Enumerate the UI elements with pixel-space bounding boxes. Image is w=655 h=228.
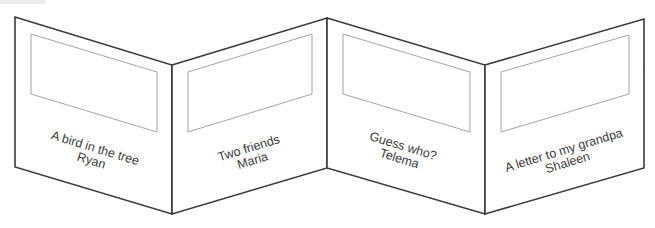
panel-3-outline <box>327 18 485 214</box>
panel-2-outline <box>172 18 327 214</box>
book-panel-3: Guess who? Telema <box>327 18 485 214</box>
book-panel-1: A bird in the tree Ryan <box>15 17 172 214</box>
panel-4-outline <box>485 19 644 214</box>
accordion-book-diagram: A bird in the tree Ryan Two friends Mari… <box>0 0 655 228</box>
book-panel-2: Two friends Maria <box>172 18 327 214</box>
panel-1-outline <box>15 17 172 214</box>
book-panel-4: A letter to my grandpa Shaleen <box>485 19 644 214</box>
